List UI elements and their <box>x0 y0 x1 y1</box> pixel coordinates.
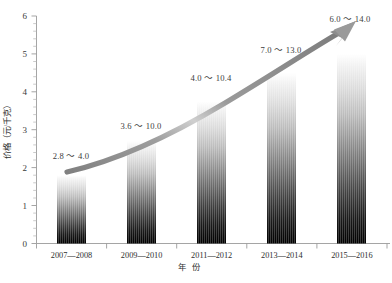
x-axis-ticks <box>37 244 388 249</box>
y-tick-6: 6 <box>23 11 28 21</box>
range-label-2011-2012: 4.0 ～ 10.4 <box>190 73 232 83</box>
range-label-2007-2008: 2.8 ～ 4.0 <box>53 151 90 161</box>
x-axis-tick-labels: 2007—2008 2009—2010 2011—2012 2013—2014 … <box>51 251 373 260</box>
y-tick-4: 4 <box>23 87 28 97</box>
y-tick-3: 3 <box>23 125 28 135</box>
x-axis-title: 年 份 <box>178 262 201 272</box>
bar-2013-2014 <box>267 73 296 244</box>
x-tick-2015-2016: 2015—2016 <box>331 251 372 260</box>
x-tick-2011-2012: 2011—2012 <box>191 251 232 260</box>
x-tick-2013-2014: 2013—2014 <box>261 251 303 260</box>
range-label-2015-2016: 6.0 ～ 14.0 <box>329 14 370 24</box>
y-tick-1: 1 <box>23 201 28 211</box>
bar-2015-2016 <box>337 54 366 244</box>
bar-2009-2010 <box>127 141 156 243</box>
x-tick-2007-2008: 2007—2008 <box>51 251 92 260</box>
y-axis-title: 价格（元/千克） <box>2 101 12 159</box>
bar-2007-2008 <box>57 175 86 243</box>
x-axis-title-char-1: 年 <box>178 262 186 272</box>
y-tick-0: 0 <box>23 239 28 249</box>
range-label-2009-2010: 3.6 ～ 10.0 <box>120 121 161 131</box>
bar-chart: 0 1 2 3 4 5 6 价格（元/千克） <box>0 0 392 283</box>
chart-svg: 0 1 2 3 4 5 6 价格（元/千克） <box>0 0 392 283</box>
x-tick-2009-2010: 2009—2010 <box>121 251 162 260</box>
y-tick-2: 2 <box>23 163 28 173</box>
y-axis-major-ticks <box>32 16 37 244</box>
range-label-2013-2014: 7.0 ～ 13.0 <box>260 45 301 55</box>
x-axis-title-char-2: 份 <box>192 262 201 272</box>
bar-2011-2012 <box>197 101 226 243</box>
y-axis-tick-labels: 0 1 2 3 4 5 6 <box>23 11 28 248</box>
y-tick-5: 5 <box>23 49 28 59</box>
